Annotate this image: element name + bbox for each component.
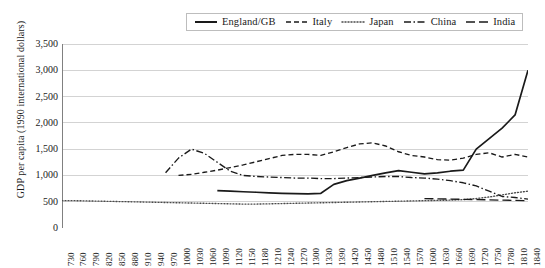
- legend-item-england-gb[interactable]: England/GB: [194, 16, 276, 27]
- legend-item-italy[interactable]: Italy: [285, 16, 333, 27]
- series-line-italy: [179, 143, 529, 176]
- x-tick-label: 1180: [260, 248, 270, 266]
- x-tick-label: 940: [156, 253, 166, 267]
- x-tick-label: 1150: [247, 248, 257, 266]
- x-tick-label: 1780: [506, 248, 516, 266]
- legend-item-label: China: [431, 16, 457, 27]
- x-tick-label: 1090: [221, 248, 231, 266]
- x-tick-label: 1660: [454, 248, 464, 266]
- y-axis-tick-labels: 05001,0001,5002,0002,5003,0003,500: [14, 44, 58, 228]
- x-tick-label: 1270: [299, 248, 309, 266]
- y-tick-label: 2,000: [36, 118, 59, 128]
- x-tick-label: 1300: [311, 248, 321, 266]
- x-tick-label: 1030: [195, 248, 205, 266]
- y-tick-label: 500: [43, 197, 58, 207]
- plot-area: [62, 44, 528, 228]
- x-tick-label: 1120: [234, 248, 244, 266]
- x-tick-label: 1750: [493, 248, 503, 266]
- legend-line-swatch-icon: [465, 18, 489, 26]
- gdp-per-capita-line-chart: England/GBItalyJapanChinaIndia GDP per c…: [0, 0, 545, 268]
- x-tick-label: 820: [104, 253, 114, 267]
- x-tick-label: 1600: [428, 248, 438, 266]
- x-tick-label: 910: [143, 253, 153, 267]
- legend-item-china[interactable]: China: [403, 16, 457, 27]
- x-tick-label: 1840: [532, 248, 542, 266]
- x-tick-label: 880: [130, 253, 140, 267]
- x-tick-label: 1420: [350, 248, 360, 266]
- x-tick-label: 1000: [182, 248, 192, 266]
- x-tick-label: 1240: [286, 248, 296, 266]
- x-tick-label: 970: [169, 253, 179, 267]
- x-tick-label: 1540: [402, 248, 412, 266]
- legend-item-label: Japan: [369, 16, 393, 27]
- x-tick-label: 1720: [480, 248, 490, 266]
- legend-item-japan[interactable]: Japan: [341, 16, 393, 27]
- x-tick-label: 1810: [519, 248, 529, 266]
- x-tick-label: 1450: [363, 248, 373, 266]
- x-tick-label: 790: [91, 253, 101, 267]
- x-tick-label: 730: [66, 253, 76, 267]
- x-tick-label: 760: [78, 253, 88, 267]
- legend-item-label: India: [493, 16, 515, 27]
- legend-line-swatch-icon: [403, 18, 427, 26]
- x-axis-tick-labels: 7307607908208508809109409701000103010601…: [62, 232, 528, 268]
- y-tick-label: 1,500: [36, 144, 59, 154]
- legend-line-swatch-icon: [285, 18, 309, 26]
- x-tick-label: 850: [117, 253, 127, 267]
- y-tick-label: 3,500: [36, 39, 59, 49]
- y-tick-label: 1,000: [36, 170, 59, 180]
- x-tick-label: 1510: [389, 248, 399, 266]
- x-tick-label: 1480: [376, 248, 386, 266]
- x-tick-label: 1390: [337, 248, 347, 266]
- y-tick-label: 0: [53, 223, 58, 233]
- x-tick-label: 1690: [467, 248, 477, 266]
- legend-item-india[interactable]: India: [465, 16, 515, 27]
- x-tick-label: 1210: [273, 248, 283, 266]
- legend-line-swatch-icon: [194, 18, 218, 26]
- legend-item-label: England/GB: [222, 16, 276, 27]
- y-tick-label: 2,500: [36, 92, 59, 102]
- plot-svg: [62, 44, 528, 228]
- x-tick-label: 1060: [208, 248, 218, 266]
- y-tick-label: 3,000: [36, 65, 59, 75]
- x-tick-label: 1570: [415, 248, 425, 266]
- x-tick-label: 1330: [324, 248, 334, 266]
- x-tick-label: 1630: [441, 248, 451, 266]
- chart-legend: England/GBItalyJapanChinaIndia: [186, 13, 523, 31]
- legend-line-swatch-icon: [341, 18, 365, 26]
- legend-item-label: Italy: [313, 16, 333, 27]
